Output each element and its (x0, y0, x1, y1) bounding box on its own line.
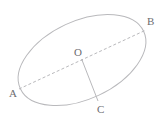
ellipse-outline-group (4, 0, 160, 124)
geometry-figure: A B O C (0, 0, 162, 124)
chord-group (19, 30, 146, 101)
point-label-o: O (74, 47, 82, 58)
segment-oc (82, 60, 98, 101)
vertex-marker-group (81, 59, 83, 61)
point-label-a: A (9, 88, 17, 99)
vertex-marker-o (81, 59, 83, 61)
point-label-c: C (97, 104, 104, 115)
ellipse-diagram-svg (0, 0, 162, 124)
point-label-b: B (147, 16, 154, 27)
ellipse-outline (4, 0, 160, 124)
